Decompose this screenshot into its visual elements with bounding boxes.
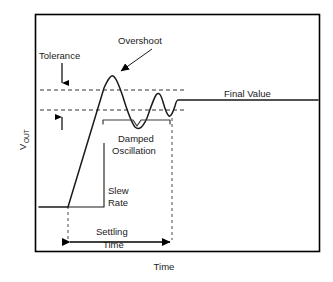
settling-time-diagram: Final Value Overshoot Tolerance Damped O…	[0, 0, 333, 282]
overshoot-label: Overshoot	[118, 35, 162, 46]
slew-rate-label-line1: Slew	[108, 185, 129, 196]
settling-time-label-line1: Settling	[96, 226, 128, 237]
tolerance-label: Tolerance	[39, 50, 80, 61]
settling-time-chart: Final Value Overshoot Tolerance Damped O…	[0, 0, 333, 282]
final-value-label: Final Value	[224, 88, 271, 99]
damped-oscillation-label-line2: Oscillation	[112, 145, 156, 156]
y-axis-label-subscript: OUT	[23, 129, 30, 143]
slew-rate-label-line2: Rate	[108, 197, 128, 208]
damped-oscillation-label-line1: Damped	[118, 133, 154, 144]
y-axis-label-main: V	[17, 143, 28, 150]
y-axis-label: V OUT	[17, 129, 30, 150]
x-axis-label: Time	[154, 261, 175, 272]
settling-time-label-line2: Time	[103, 239, 124, 250]
